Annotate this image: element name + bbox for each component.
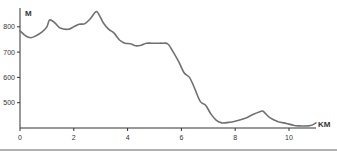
x-ticks: 0246810	[18, 128, 293, 141]
x-tick-label: 6	[179, 134, 183, 141]
x-tick-label: 8	[233, 134, 237, 141]
y-tick-label: 500	[3, 99, 15, 106]
y-unit-label: M	[25, 9, 32, 18]
y-tick-label: 800	[3, 23, 15, 30]
y-tick-label: 700	[3, 49, 15, 56]
y-tick-label: 600	[3, 74, 15, 81]
elevation-profile-chart: 500600700800 0246810 M KM	[0, 0, 337, 153]
elevation-line	[20, 11, 316, 126]
x-tick-label: 2	[72, 134, 76, 141]
y-ticks: 500600700800	[3, 23, 20, 106]
x-tick-label: 10	[285, 134, 293, 141]
x-unit-label: KM	[318, 120, 331, 129]
x-tick-label: 0	[18, 134, 22, 141]
x-tick-label: 4	[126, 134, 130, 141]
